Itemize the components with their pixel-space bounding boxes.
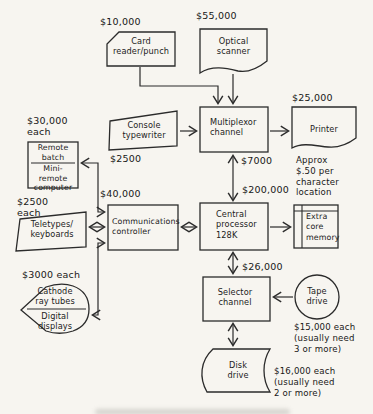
teletypes-keyboards-label: Teletypes/ keyboards bbox=[18, 219, 86, 240]
selector-channel-label: Selector channel bbox=[205, 287, 265, 308]
optical-scanner-cost: $55,000 bbox=[196, 10, 237, 21]
printer-cost: $25,000 bbox=[292, 92, 333, 103]
multiplexor-channel-label: Multiplexor channel bbox=[210, 117, 268, 138]
printer-label: Printer bbox=[292, 124, 356, 134]
remote-batch-label: Remote batch bbox=[29, 143, 77, 162]
console-typewriter-cost: $2500 bbox=[110, 153, 141, 164]
communications-controller-cost: $40,000 bbox=[100, 188, 141, 199]
digital-displays-label: Digital displays bbox=[27, 311, 83, 332]
multiplexor-link-cost: $7000 bbox=[241, 155, 272, 166]
edge-displays-controller bbox=[93, 243, 104, 315]
disk-drive-label: Disk drive bbox=[210, 360, 266, 381]
system-cost-diagram: Card reader/punch Optical scanner Consol… bbox=[0, 0, 373, 414]
displays-cost: $3000 each bbox=[22, 269, 80, 280]
edge-card-to-multiplexor bbox=[140, 67, 218, 103]
teletypes-cost: $2500 each bbox=[17, 196, 48, 218]
card-reader-label: Card reader/punch bbox=[107, 36, 175, 57]
remote-batch-cost: $30,000 each bbox=[27, 115, 68, 137]
disk-drive-note: $16,000 each (usually need 2 or more) bbox=[274, 366, 335, 398]
optical-scanner-label: Optical scanner bbox=[200, 36, 267, 57]
cathode-ray-tubes-label: Cathode ray tubes bbox=[27, 286, 83, 307]
selector-link-cost: $26,000 bbox=[242, 261, 283, 272]
console-typewriter-label: Console typewriter bbox=[110, 120, 178, 141]
central-processor-label: Central processor 128K bbox=[216, 209, 268, 240]
extra-core-note: Approx $.50 per character location bbox=[296, 155, 339, 198]
extra-core-memory-label: Extra core memory bbox=[306, 212, 338, 243]
central-processor-cost: $200,000 bbox=[242, 184, 289, 195]
mini-remote-computer-label: Mini- remote computer bbox=[29, 164, 77, 193]
communications-controller-label: Communications controller bbox=[112, 217, 178, 238]
tape-drive-note: $15,000 each (usually need 3 or more) bbox=[294, 322, 355, 354]
card-reader-cost: $10,000 bbox=[100, 16, 141, 27]
tape-drive-label: Tape drive bbox=[296, 286, 338, 307]
cropped-caption-smudge bbox=[95, 409, 290, 414]
